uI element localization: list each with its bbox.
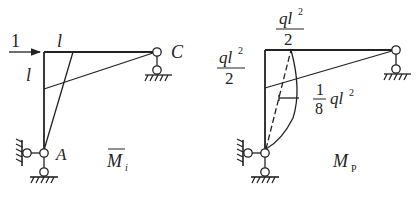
beam-length-label: l <box>57 31 62 51</box>
node-a-label: A <box>55 145 67 164</box>
node-c-label: C <box>171 42 184 62</box>
right-diagram-title: M P <box>332 151 357 174</box>
mid-moment-denominator: 8 <box>315 100 323 117</box>
left-diagram-title: M i <box>106 149 128 173</box>
column-height-label: l <box>26 65 31 85</box>
left-moment-line-beam <box>44 53 153 89</box>
support-a-right <box>237 139 279 183</box>
unit-load-label: 1 <box>11 31 20 51</box>
top-moment-label: ql 2 2 <box>276 6 304 49</box>
unit-moment-diagram <box>9 48 172 183</box>
mp-subscript: P <box>351 163 357 174</box>
left-moment-denominator: 2 <box>225 69 234 88</box>
top-moment-power: 2 <box>298 6 303 17</box>
left-moment-line-column <box>44 52 73 150</box>
support-a <box>16 139 58 183</box>
top-moment-numerator: ql <box>279 9 293 28</box>
parabolic-moment-curve <box>266 50 297 149</box>
left-moment-label: ql 2 2 <box>217 45 245 88</box>
left-moment-numerator: ql <box>219 48 233 67</box>
mid-moment-label: 1 8 ql 2 <box>313 81 354 117</box>
mid-moment-numerator: 1 <box>316 81 324 98</box>
load-moment-diagram <box>237 46 411 183</box>
bending-moment-diagrams: 1 l l C A M i <box>0 0 417 198</box>
roller-support-right <box>384 46 411 80</box>
top-moment-denominator: 2 <box>284 30 293 49</box>
right-moment-line-beam <box>265 51 392 88</box>
left-moment-power: 2 <box>238 45 243 56</box>
m-bar-subscript: i <box>125 162 128 173</box>
m-bar-symbol: M <box>106 151 123 171</box>
mid-moment-power: 2 <box>349 87 354 98</box>
mid-moment-value: ql <box>330 89 344 108</box>
mp-symbol: M <box>332 151 349 171</box>
